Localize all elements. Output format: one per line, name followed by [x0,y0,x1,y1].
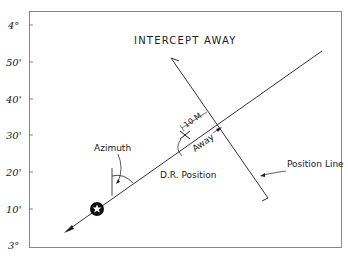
diagram-frame [30,12,342,248]
intercept-distance-label: 10 M [182,111,203,130]
azimuth-leader-arrow [116,179,120,184]
dr-position-label: D.R. Position [160,170,217,180]
azimuth-label: Azimuth [94,143,131,153]
y-label-30min: 30' [6,130,21,141]
star-icon [90,202,104,216]
y-label-3deg: 3° [8,240,19,251]
y-label-4deg: 4° [7,20,19,31]
azimuth-arrowhead [64,225,74,233]
y-label-10min: 10' [6,204,21,215]
dr-position-marker [180,131,190,139]
azimuth-line [68,51,322,230]
y-label-40min: 40' [5,94,21,105]
position-line-label: Position Line [287,159,344,169]
azimuth-leader [118,154,121,182]
diagram-title: INTERCEPT AWAY [134,35,237,46]
y-label-20min: 20' [5,167,21,178]
y-label-50min: 50' [6,57,21,68]
azimuth-arc [112,175,133,183]
intercept-diagram: 4° 50' 40' 30' 20' 10' 3° INTERCEPT AWAY… [0,0,348,260]
position-line-leader-arrow [260,173,265,177]
position-line-leader [263,171,286,175]
dr-position-leader [178,139,182,156]
